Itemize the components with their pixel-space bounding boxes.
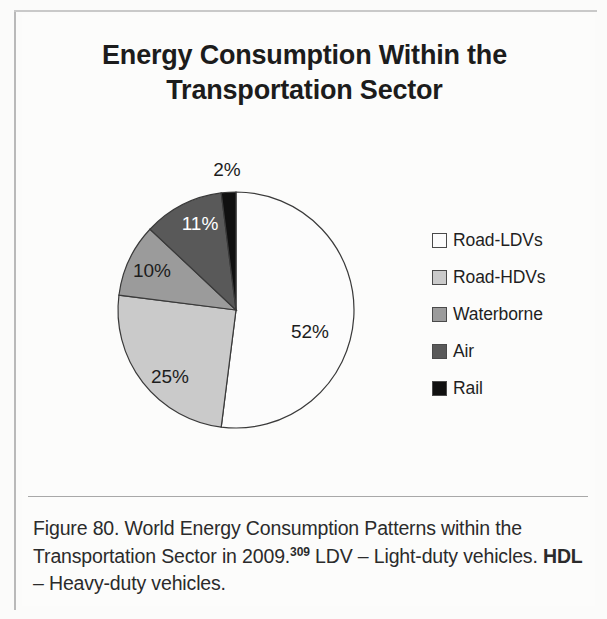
legend-item-road-hdvs: Road-HDVs [432, 259, 592, 296]
legend-swatch-icon [432, 344, 447, 359]
legend-swatch-icon [432, 233, 447, 248]
pie-value-label-rail: 2% [213, 159, 241, 180]
pie-slices [118, 192, 354, 428]
pie-value-label-air: 11% [182, 213, 219, 234]
figure-page: Energy Consumption Within the Transporta… [0, 0, 607, 619]
legend-item-rail: Rail [432, 370, 592, 407]
chart-legend: Road-LDVsRoad-HDVsWaterborneAirRail [432, 222, 592, 407]
caption-footnote-marker: 309 [290, 544, 310, 558]
pie-slice-road-ldvs [221, 192, 354, 428]
legend-swatch-icon [432, 307, 447, 322]
pie-value-label-waterborne: 10% [133, 260, 171, 281]
pie-value-label-road-ldvs: 52% [291, 321, 329, 342]
legend-item-air: Air [432, 333, 592, 370]
legend-item-label: Waterborne [453, 304, 543, 325]
pie-value-label-road-hdvs: 25% [151, 366, 189, 387]
legend-item-road-ldvs: Road-LDVs [432, 222, 592, 259]
caption-text-part-2: LDV – Light-duty vehicles. [310, 545, 543, 567]
caption-bold-term: HDL [543, 545, 583, 567]
legend-item-label: Air [453, 341, 474, 362]
legend-swatch-icon [432, 381, 447, 396]
figure-caption: Figure 80. World Energy Consumption Patt… [33, 515, 593, 598]
legend-item-label: Road-LDVs [453, 230, 543, 251]
caption-text-part-3: – Heavy-duty vehicles. [33, 572, 226, 594]
legend-swatch-icon [432, 270, 447, 285]
legend-item-label: Road-HDVs [453, 267, 545, 288]
legend-item-waterborne: Waterborne [432, 296, 592, 333]
legend-item-label: Rail [453, 378, 483, 399]
pie-slice-road-hdvs [118, 295, 236, 427]
caption-divider [28, 496, 588, 497]
